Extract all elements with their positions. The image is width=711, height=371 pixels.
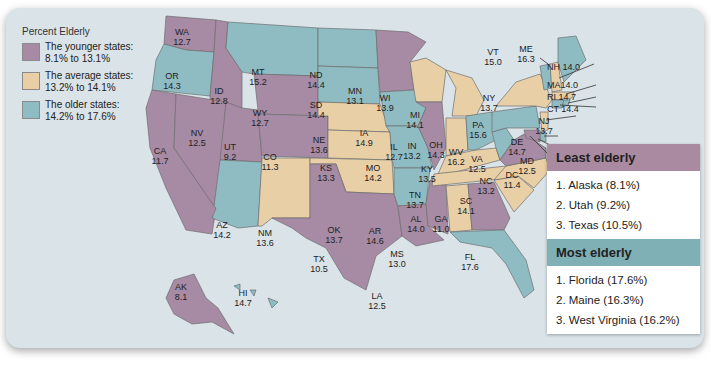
svg-text:NC13.2: NC13.2 <box>477 176 495 196</box>
svg-text:MD12.5: MD12.5 <box>518 156 536 176</box>
svg-text:SD14.4: SD14.4 <box>307 100 325 120</box>
list-item: 2. Maine (16.3%) <box>556 290 691 310</box>
svg-text:TX10.5: TX10.5 <box>310 254 328 274</box>
svg-text:MO14.2: MO14.2 <box>364 163 382 183</box>
legend-title: Percent Elderly <box>22 26 172 37</box>
most-elderly-heading: Most elderly <box>547 239 700 266</box>
svg-text:ME16.3: ME16.3 <box>517 44 535 64</box>
legend-range: 14.2% to 17.6% <box>45 111 119 123</box>
svg-text:NE13.6: NE13.6 <box>310 135 328 155</box>
svg-text:ND14.4: ND14.4 <box>307 70 325 90</box>
state-AZ <box>212 160 262 228</box>
svg-text:AK8.1: AK8.1 <box>175 282 188 302</box>
svg-text:GA11.0: GA11.0 <box>433 214 450 234</box>
svg-text:NJ13.7: NJ13.7 <box>535 116 553 136</box>
legend-label: The younger states: <box>45 41 133 53</box>
least-elderly-list: 1. Alaska (8.1%) 2. Utah (9.2%) 3. Texas… <box>547 171 700 239</box>
most-elderly-list: 1. Florida (17.6%) 2. Maine (16.3%) 3. W… <box>547 266 700 334</box>
svg-text:NH 14.0: NH 14.0 <box>547 62 580 72</box>
legend-label: The average states: <box>45 70 133 82</box>
legend-swatch-younger <box>22 43 40 61</box>
rankings-box: Least elderly 1. Alaska (8.1%) 2. Utah (… <box>547 144 700 334</box>
list-item: 3. Texas (10.5%) <box>556 215 691 235</box>
list-item: 2. Utah (9.2%) <box>556 195 691 215</box>
svg-text:NV12.5: NV12.5 <box>188 128 206 148</box>
svg-text:WA12.7: WA12.7 <box>173 27 191 47</box>
legend-swatch-older <box>22 101 40 119</box>
svg-text:RI 14.7: RI 14.7 <box>547 92 576 102</box>
state-PA <box>492 106 540 132</box>
svg-text:UT9.2: UT9.2 <box>224 142 237 162</box>
legend-range: 8.1% to 13.1% <box>45 53 133 65</box>
legend-item-older: The older states: 14.2% to 17.6% <box>22 99 172 123</box>
legend-label: The older states: <box>45 99 119 111</box>
svg-text:MN13.1: MN13.1 <box>346 86 364 106</box>
svg-text:NM13.6: NM13.6 <box>256 228 274 248</box>
svg-text:CO11.3: CO11.3 <box>262 152 279 172</box>
svg-text:WY12.7: WY12.7 <box>251 108 269 128</box>
svg-text:VT15.0: VT15.0 <box>484 47 502 67</box>
svg-text:AR14.6: AR14.6 <box>366 226 384 246</box>
svg-text:DE14.7: DE14.7 <box>508 137 526 157</box>
svg-text:NY13.7: NY13.7 <box>480 93 498 113</box>
state-ME <box>558 36 586 82</box>
svg-text:MA14.0: MA14.0 <box>547 80 578 90</box>
legend-item-average: The average states: 13.2% to 14.1% <box>22 70 172 94</box>
list-item: 1. Alaska (8.1%) <box>556 175 691 195</box>
legend-swatch-average <box>22 72 40 90</box>
svg-text:DC11.4: DC11.4 <box>504 170 521 190</box>
svg-text:OK13.7: OK13.7 <box>325 225 343 245</box>
state-MT <box>226 22 318 76</box>
svg-text:CA11.7: CA11.7 <box>152 146 169 166</box>
state-WI <box>410 58 446 102</box>
svg-text:MS13.0: MS13.0 <box>388 249 406 269</box>
legend: Percent Elderly The younger states: 8.1%… <box>22 26 172 128</box>
svg-text:HI14.7: HI14.7 <box>234 288 252 308</box>
legend-item-younger: The younger states: 8.1% to 13.1% <box>22 41 172 65</box>
state-ND <box>318 28 378 68</box>
svg-text:MT15.2: MT15.2 <box>249 67 267 87</box>
list-item: 3. West Virginia (16.2%) <box>556 310 691 330</box>
svg-text:FL17.6: FL17.6 <box>461 252 479 272</box>
state-MI <box>446 70 484 116</box>
svg-text:OH14.3: OH14.3 <box>427 140 445 160</box>
svg-text:CT 14.4: CT 14.4 <box>547 104 579 114</box>
legend-range: 13.2% to 14.1% <box>45 82 133 94</box>
list-item: 1. Florida (17.6%) <box>556 270 691 290</box>
svg-text:SC14.1: SC14.1 <box>457 196 475 216</box>
svg-text:LA12.5: LA12.5 <box>368 291 386 311</box>
map-panel: WA12.7 OR14.3 CA11.7 ID12.8 NV12.5 UT9.2… <box>6 8 704 348</box>
least-elderly-heading: Least elderly <box>547 144 700 171</box>
svg-text:WV16.2: WV16.2 <box>447 147 465 167</box>
